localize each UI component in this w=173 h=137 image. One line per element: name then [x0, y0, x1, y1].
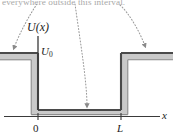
potential-function-label: U(x) [27, 21, 49, 33]
finite-square-well-figure: everywhere outside this interval. [0, 0, 173, 137]
well-width-label: L [117, 123, 123, 134]
potential-well-diagram [0, 0, 173, 137]
axes [4, 36, 160, 120]
leader-line-right [120, 5, 145, 46]
potential-energy-curve [0, 53, 173, 110]
leader-line-middle [75, 4, 87, 106]
right-barrier-wall-fill [121, 52, 128, 115]
barrier-height-label: U0 [41, 46, 53, 58]
x-axis-label: x [162, 110, 167, 121]
potential-fill-outlines [0, 53, 173, 115]
origin-label: 0 [33, 123, 39, 134]
barrier-height-symbol: U [41, 45, 49, 57]
barrier-height-subscript: 0 [49, 50, 53, 59]
